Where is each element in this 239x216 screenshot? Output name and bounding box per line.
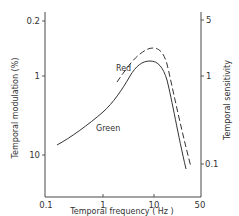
- y-right-tick-label: 5: [206, 15, 211, 25]
- y-right-tick-label: 1: [206, 71, 211, 81]
- green-curve: [57, 61, 186, 169]
- x-axis-label: Temporal frequency ( Hz ): [69, 207, 173, 216]
- y-right-tick-label: 0.1: [205, 159, 219, 169]
- left-ticks: 0.2 1 10: [26, 16, 45, 160]
- y-left-tick-label: 1: [35, 71, 40, 81]
- x-tick-label: 50: [195, 200, 206, 210]
- green-label: Green: [96, 124, 120, 133]
- y-left-axis-label: Temporal modulation (%): [11, 58, 20, 160]
- y-right-axis-label: Temporal sensitivity: [223, 60, 232, 141]
- chart: 0.2 1 10 5 1 0.1 0.1 1 10 50 Temporal fr…: [0, 0, 239, 216]
- x-tick-label: 0.1: [39, 200, 53, 210]
- right-ticks: 5 1 0.1: [201, 15, 219, 169]
- y-left-tick-label: 10: [29, 150, 40, 160]
- y-left-tick-label: 0.2: [26, 16, 40, 26]
- red-label: Red: [116, 64, 131, 73]
